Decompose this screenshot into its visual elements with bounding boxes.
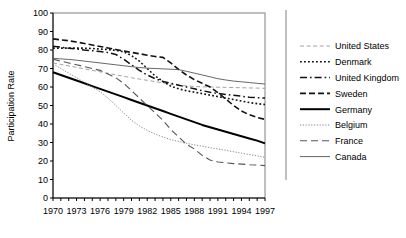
legend-item-label[interactable]: United States — [335, 41, 390, 51]
legend-item-label[interactable]: France — [335, 136, 363, 146]
legend-item-label[interactable]: Sweden — [335, 89, 368, 99]
y-tick-label: 100 — [33, 8, 48, 18]
plot-frame — [53, 13, 265, 198]
series-line — [53, 39, 265, 119]
legend-item-label[interactable]: Denmark — [335, 57, 372, 67]
x-tick-label: 1988 — [184, 206, 204, 216]
series-line — [53, 48, 265, 104]
y-tick-label: 50 — [38, 101, 48, 111]
x-tick-label: 1997 — [255, 206, 275, 216]
plot-area-border — [53, 13, 265, 198]
y-tick-label: 90 — [38, 27, 48, 37]
y-tick-label: 60 — [38, 82, 48, 92]
x-tick-label: 1985 — [161, 206, 181, 216]
y-tick-label: 30 — [38, 138, 48, 148]
line-chart: 0102030405060708090100 19701973197619791… — [0, 0, 406, 238]
x-tick-label: 1991 — [208, 206, 228, 216]
y-tick-label: 0 — [43, 193, 48, 203]
legend-item-label[interactable]: Germany — [335, 105, 373, 115]
x-tick-label: 1970 — [43, 206, 63, 216]
legend-item-label[interactable]: Canada — [335, 152, 367, 162]
y-tick-label: 10 — [38, 175, 48, 185]
y-axis-ticks: 0102030405060708090100 — [33, 8, 53, 203]
y-tick-label: 70 — [38, 64, 48, 74]
series-line — [53, 59, 265, 165]
x-tick-label: 1979 — [114, 206, 134, 216]
x-tick-label: 1976 — [90, 206, 110, 216]
series-line — [53, 58, 265, 84]
legend-item-label[interactable]: United Kingdom — [335, 73, 399, 83]
chart-legend: United StatesDenmarkUnited KingdomSweden… — [286, 10, 399, 180]
x-tick-label: 1994 — [231, 206, 251, 216]
legend-item-label[interactable]: Belgium — [335, 120, 368, 130]
x-axis-ticks: 1970197319761979198219851988199119941997 — [43, 198, 275, 216]
series-line — [53, 46, 265, 98]
x-tick-label: 1973 — [67, 206, 87, 216]
y-axis-title: Participation Rate — [6, 70, 16, 141]
y-tick-label: 40 — [38, 119, 48, 129]
x-tick-label: 1982 — [137, 206, 157, 216]
chart-figure: 0102030405060708090100 19701973197619791… — [0, 0, 406, 238]
y-tick-label: 20 — [38, 156, 48, 166]
y-tick-label: 80 — [38, 45, 48, 55]
data-series-group — [53, 39, 265, 166]
